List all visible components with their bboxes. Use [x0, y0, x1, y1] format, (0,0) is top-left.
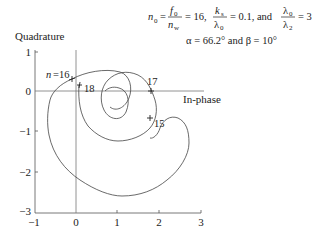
y-tick-label: 0	[26, 85, 32, 97]
equation-line-2: α = 66.2° and β = 10°	[186, 35, 277, 46]
svg-text:w: w	[174, 24, 180, 32]
point-label-16-value: =16	[53, 69, 69, 80]
svg-text:n: n	[168, 19, 173, 30]
x-ticks	[117, 210, 201, 213]
svg-text:= 16,: = 16,	[185, 11, 207, 22]
chart: 1 0 −1 −2 −3 −1 0 1 2 3 Quadrature In-ph…	[0, 0, 324, 241]
x-tick-label: 2	[156, 216, 162, 228]
svg-text:2: 2	[289, 24, 293, 32]
svg-text:0: 0	[220, 24, 224, 32]
point-label-16: n	[46, 69, 51, 80]
y-ticks	[35, 52, 38, 172]
svg-text:0: 0	[154, 17, 158, 25]
x-tick-label: 1	[114, 216, 120, 228]
y-tick-label: −1	[19, 125, 31, 137]
point-label-17: 17	[147, 76, 158, 87]
x-tick-label: 0	[73, 216, 79, 228]
y-tick-label: 1	[26, 46, 32, 58]
svg-text:n: n	[148, 11, 153, 22]
svg-text:k: k	[215, 5, 220, 16]
svg-text:=: =	[160, 11, 166, 22]
equation-annotation: n 0 = f 0 n w = 16, k s λ 0 = 0.1, and λ…	[148, 5, 312, 32]
y-tick-label: −2	[19, 166, 31, 178]
outer-spiral-curve	[48, 79, 189, 196]
x-tick-label: −1	[28, 216, 40, 228]
y-axis-title: Quadrature	[15, 30, 65, 42]
x-axis-title: In-phase	[183, 93, 221, 105]
svg-text:= 0.1, and: = 0.1, and	[230, 11, 273, 22]
x-tick-label: 3	[198, 216, 204, 228]
svg-text:= 3: = 3	[298, 11, 312, 22]
point-label-15: 15	[154, 118, 165, 129]
point-label-18: 18	[84, 83, 95, 94]
